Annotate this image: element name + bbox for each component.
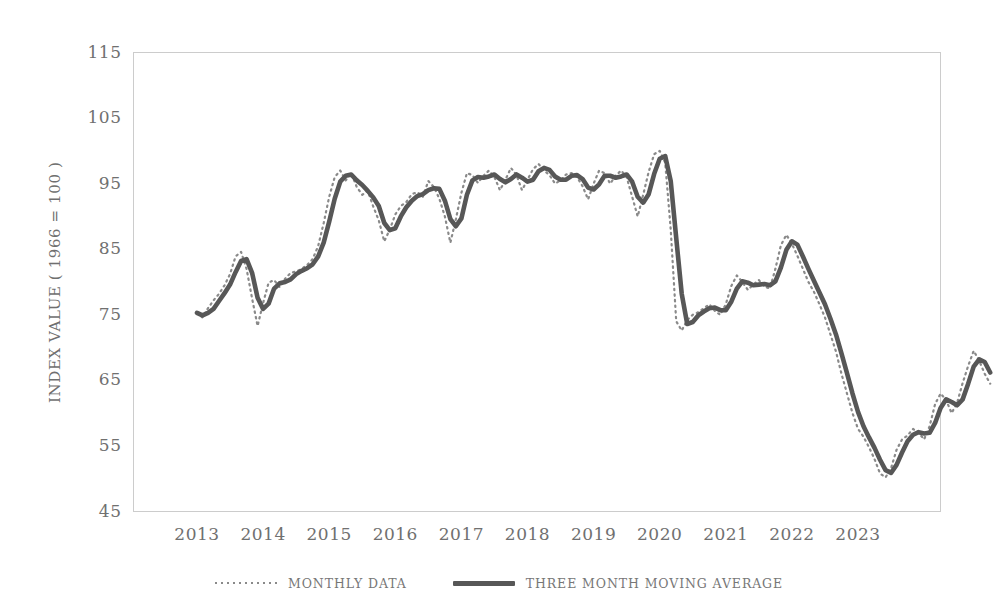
plot-canvas [0,0,998,611]
three-month-moving-average-line [197,156,990,473]
y-tick-75: 75 [82,304,122,324]
y-tick-115: 115 [82,42,122,62]
y-tick-55: 55 [82,435,122,455]
x-tick-2021: 2021 [696,524,756,544]
y-tick-85: 85 [82,238,122,258]
chart-figure: INDEX VALUE ( 1966 = 100 ) 1151059585756… [0,0,998,611]
x-tick-2013: 2013 [167,524,227,544]
x-tick-2022: 2022 [762,524,822,544]
monthly-data-line [197,151,990,478]
legend-item-monthly-data: MONTHLY DATA [215,576,407,591]
legend-item-three-month-moving-average: THREE MONTH MOVING AVERAGE [453,576,783,591]
x-tick-2020: 2020 [630,524,690,544]
x-tick-2023: 2023 [828,524,888,544]
y-tick-95: 95 [82,173,122,193]
legend-swatch-solid-icon [453,581,515,586]
x-tick-2018: 2018 [498,524,558,544]
legend-label-monthly-data: MONTHLY DATA [288,576,407,591]
legend-swatch-dotted-icon [215,582,277,585]
x-tick-2019: 2019 [564,524,624,544]
x-tick-2017: 2017 [431,524,491,544]
y-axis-title: INDEX VALUE ( 1966 = 100 ) [46,161,64,402]
chart-legend: MONTHLY DATA THREE MONTH MOVING AVERAGE [0,568,998,598]
y-tick-105: 105 [82,107,122,127]
legend-label-three-month-moving-average: THREE MONTH MOVING AVERAGE [526,576,783,591]
x-tick-2015: 2015 [299,524,359,544]
x-tick-2016: 2016 [365,524,425,544]
x-tick-2014: 2014 [233,524,293,544]
y-tick-65: 65 [82,369,122,389]
y-tick-45: 45 [82,501,122,521]
